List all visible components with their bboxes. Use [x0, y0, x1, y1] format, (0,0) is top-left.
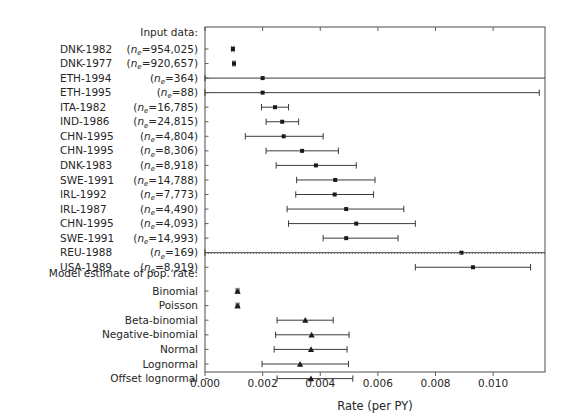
point-marker — [314, 163, 318, 167]
row-label-n: Lognormal — [142, 358, 198, 370]
row-label-code: REU-1988 — [60, 246, 112, 258]
forest-plot-svg: Input data:DNK-1982(ne=954,025)DNK-1977(… — [0, 0, 572, 417]
input-data-header: Input data: — [140, 26, 198, 38]
x-axis-title: Rate (per PY) — [337, 399, 412, 413]
row-label-n: Negative-binomial — [102, 328, 198, 340]
forest-plot-figure: Input data:DNK-1982(ne=954,025)DNK-1977(… — [0, 0, 572, 417]
row-label-code: IRL-1987 — [60, 203, 107, 215]
point-marker — [261, 91, 265, 95]
x-tick-label: 0.006 — [363, 377, 393, 389]
point-marker — [471, 265, 475, 269]
point-marker — [231, 47, 235, 51]
point-marker — [354, 222, 358, 226]
x-tick-label: 0.008 — [420, 377, 450, 389]
row-label-code: CHN-1995 — [60, 130, 114, 142]
row-label-code: SWE-1991 — [60, 232, 114, 244]
row-label-code: IND-1986 — [60, 115, 110, 127]
row-label-code: IRL-1992 — [60, 188, 107, 200]
row-label-n: Normal — [160, 343, 198, 355]
point-marker — [300, 149, 304, 153]
row-label-n: Beta-binomial — [125, 314, 198, 326]
point-marker — [344, 236, 348, 240]
row-label-code: CHN-1995 — [60, 217, 114, 229]
row-label-code: DNK-1983 — [60, 159, 112, 171]
model-estimate-header: Model estimate of pop. rate: — [49, 267, 198, 279]
point-marker — [282, 134, 286, 138]
point-marker — [333, 178, 337, 182]
point-marker — [280, 120, 284, 124]
row-label-code: CHN-1995 — [60, 144, 114, 156]
row-label-n: Offset lognormal — [110, 372, 198, 384]
row-label-code: ETH-1994 — [60, 72, 112, 84]
point-marker — [273, 105, 277, 109]
point-marker — [261, 76, 265, 80]
point-marker — [459, 251, 463, 255]
point-marker — [344, 207, 348, 211]
x-tick-label: 0.002 — [248, 377, 278, 389]
x-tick-label: 0.004 — [305, 377, 335, 389]
point-marker — [333, 193, 337, 197]
row-label-n: Binomial — [152, 285, 198, 297]
row-label-n: Poisson — [159, 299, 198, 311]
row-label-code: ITA-1982 — [60, 101, 106, 113]
point-marker — [232, 62, 236, 66]
row-label-code: DNK-1982 — [60, 43, 112, 55]
x-tick-label: 0.010 — [478, 377, 508, 389]
x-tick-label: 0.000 — [190, 377, 220, 389]
row-label-code: DNK-1977 — [60, 57, 112, 69]
row-label-code: ETH-1995 — [60, 86, 111, 98]
row-label-code: SWE-1991 — [60, 174, 114, 186]
